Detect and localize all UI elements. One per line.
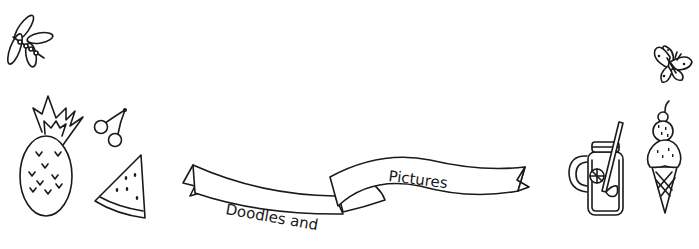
doodles-illustration: Doodles and Pictures — [0, 0, 699, 249]
lemonade-jar-icon — [569, 122, 623, 215]
ice-cream-cone-icon — [648, 101, 681, 213]
watermelon-slice-icon — [95, 155, 145, 218]
cherries-icon — [95, 108, 128, 147]
butterfly-icon — [655, 46, 692, 82]
dragonfly-icon — [5, 13, 54, 68]
banner-ribbon: Doodles and Pictures — [183, 157, 529, 234]
pineapple-icon — [20, 96, 83, 216]
